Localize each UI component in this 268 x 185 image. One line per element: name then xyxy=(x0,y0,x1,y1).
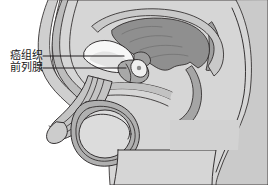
glans xyxy=(47,122,68,144)
thigh-block xyxy=(114,150,216,185)
anatomy-diagram xyxy=(0,0,268,185)
lower-body-fill xyxy=(170,120,240,150)
illustration-root: 癌组织 前列腺 xyxy=(0,0,268,185)
label-prostate: 前列腺 xyxy=(10,62,43,73)
tumor-center-dot xyxy=(137,66,141,70)
label-cancer-tissue: 癌组织 xyxy=(10,50,43,61)
